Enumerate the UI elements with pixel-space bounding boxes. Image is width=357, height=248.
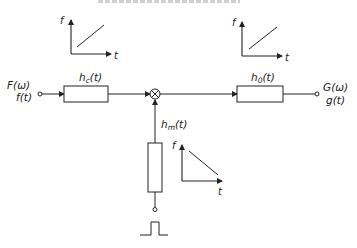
- input-time-label: f(t): [16, 91, 32, 103]
- inset-y-label: f: [172, 140, 177, 151]
- inset-x-label: t: [285, 52, 290, 63]
- inset-chirp-up-right: f t: [232, 17, 290, 63]
- rectangular-pulse-icon: [140, 222, 168, 235]
- block-hm-label: hm(t): [161, 118, 187, 132]
- block-hc: hc(t): [64, 71, 108, 102]
- inset-chirp-down: f t: [172, 140, 223, 197]
- block-hc-label: hc(t): [79, 71, 102, 85]
- inset-x-label: t: [218, 186, 223, 197]
- inset-y-label: f: [232, 17, 237, 28]
- inset-chirp-up-left: f t: [60, 15, 119, 61]
- inset-y-label: f: [60, 15, 65, 26]
- inset-x-label: t: [114, 50, 119, 61]
- input-freq-label: F(ω): [7, 79, 30, 91]
- block-h0-label: h0(t): [251, 71, 275, 85]
- multiplier: [150, 89, 160, 99]
- block-diagram: f t f t f t F(ω) f(t) hc(t) h0(: [0, 0, 357, 248]
- output-freq-label: G(ω): [323, 81, 348, 93]
- input-terminal: F(ω) f(t): [7, 79, 64, 103]
- output-terminal: G(ω) g(t): [283, 81, 348, 106]
- block-h0: h0(t): [237, 71, 283, 102]
- block-hm: hm(t): [148, 100, 187, 212]
- output-time-label: g(t): [326, 94, 345, 106]
